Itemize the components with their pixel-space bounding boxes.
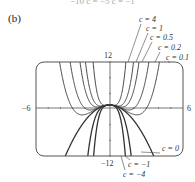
annotation-label: c = 0.2 (158, 43, 181, 52)
curve-c0 (36, 105, 183, 182)
curve-c4 (36, 105, 183, 182)
x-max-label: 6 (187, 104, 191, 113)
curve-c1 (36, 105, 183, 182)
y-min-label: −12 (101, 159, 114, 168)
annotation-label: c = 0.5 (150, 33, 173, 42)
annotation-label: c = 0 (162, 144, 179, 153)
function-family-plot: −6 6 12 −12 c = 4c = 1c = 0.5c = 0.2c = … (0, 0, 195, 182)
y-max-label: 12 (104, 51, 112, 60)
axis-ticks (48, 62, 171, 156)
annotation-label: c = 4 (139, 15, 156, 24)
plot-frame (36, 62, 183, 156)
annotation-label: c = 0.1 (166, 53, 189, 62)
annotation-label: c = −4 (123, 170, 145, 179)
annotation-label: c = −1 (128, 160, 150, 169)
annotation-label: c = 1 (146, 24, 163, 33)
x-min-label: −6 (22, 104, 31, 113)
